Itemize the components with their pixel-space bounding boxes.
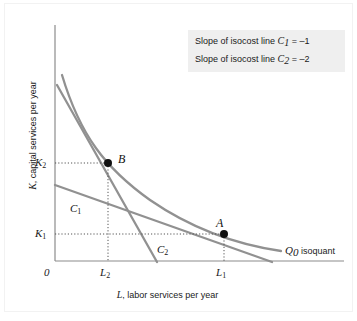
isoquant-label-text: isoquant <box>298 246 335 256</box>
x-tick-l1-subscript: 1 <box>222 271 226 280</box>
isoquant-label-symbol: Q <box>285 244 293 256</box>
y-tick-k1-subscript: 1 <box>42 232 46 241</box>
legend-item-c2-suffix: = –2 <box>289 54 309 64</box>
legend-item-c2-prefix: Slope of isocost line <box>195 54 278 64</box>
isocost-c2-label: C2 <box>157 244 168 257</box>
point-b-label: B <box>118 153 125 165</box>
y-axis-label: K, capital services per year <box>27 56 38 216</box>
legend-item-c1-prefix: Slope of isocost line <box>195 36 278 46</box>
x-axis-label: L, labor services per year <box>55 289 280 300</box>
x-tick-label-l1: L1 <box>216 267 226 280</box>
point-b-marker <box>104 159 112 167</box>
point-a-marker <box>220 230 228 238</box>
y-axis-label-symbol: K <box>27 183 38 190</box>
legend-item-c2: Slope of isocost line C2 = –2 <box>195 53 345 66</box>
isocost-c2-label-subscript: 2 <box>164 248 168 257</box>
isoquant-curve <box>62 75 281 251</box>
legend-item-c1: Slope of isocost line C1 = –1 <box>195 35 345 48</box>
isocost-c1-label-subscript: 1 <box>77 207 81 216</box>
x-tick-l2-subscript: 2 <box>106 271 110 280</box>
legend: Slope of isocost line C1 = –1 Slope of i… <box>195 35 345 71</box>
origin-label: 0 <box>44 267 50 278</box>
isocost-c1-label: C1 <box>70 203 81 216</box>
point-a-label: A <box>216 217 223 229</box>
figure-container: Slope of isocost line C1 = –1 Slope of i… <box>0 0 357 321</box>
x-axis-label-text: , labor services per year <box>122 290 218 300</box>
y-tick-label-k2: K2 <box>35 157 46 170</box>
isocost-c2-line <box>57 85 157 262</box>
x-tick-label-l2: L2 <box>100 267 110 280</box>
y-tick-k2-subscript: 2 <box>42 161 46 170</box>
legend-item-c1-suffix: = –1 <box>289 36 309 46</box>
isoquant-label: Q0 isoquant <box>285 244 335 258</box>
y-tick-label-k1: K1 <box>35 228 46 241</box>
